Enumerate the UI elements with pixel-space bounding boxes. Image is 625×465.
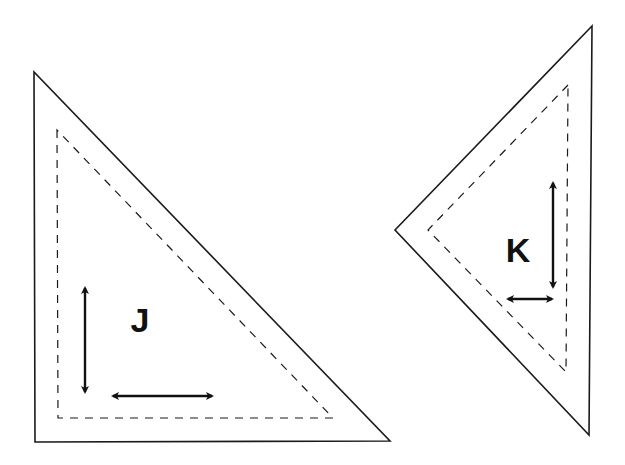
triangle-k	[395, 26, 592, 435]
pattern-diagram: J K	[0, 0, 625, 465]
triangle-j-seam-line	[57, 130, 333, 418]
triangle-k-label: K	[506, 233, 531, 267]
diagram-canvas	[0, 0, 625, 465]
triangle-j	[34, 72, 390, 442]
triangle-k-seam-line	[428, 85, 568, 372]
triangle-j-outline	[34, 72, 390, 442]
triangle-j-label: J	[131, 303, 150, 337]
triangle-k-outline	[395, 26, 592, 435]
